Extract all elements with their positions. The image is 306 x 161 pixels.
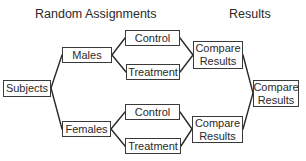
- edge-females-control: [111, 112, 125, 129]
- node-females-compare-line1: Compare: [195, 117, 240, 130]
- edge-females-treatment: [111, 129, 125, 146]
- node-females: Females: [62, 121, 111, 137]
- node-males-label: Males: [72, 49, 101, 62]
- edge-fcompare-final: [243, 93, 253, 129]
- node-subjects-label: Subjects: [6, 82, 48, 95]
- node-males-treatment-label: Treatment: [128, 66, 178, 79]
- node-females-treatment: Treatment: [125, 138, 181, 154]
- node-females-control: Control: [125, 104, 180, 120]
- node-males-compare-results: Compare Results: [193, 41, 243, 69]
- node-females-label: Females: [65, 123, 107, 136]
- node-females-treatment-label: Treatment: [128, 140, 178, 153]
- node-subjects: Subjects: [3, 80, 51, 97]
- node-males-treatment: Treatment: [126, 64, 180, 80]
- edge-subjects-males: [51, 55, 62, 88]
- heading-results: Results: [229, 8, 271, 21]
- edge-males-treatment: [112, 55, 126, 72]
- node-females-compare-line2: Results: [199, 130, 236, 143]
- node-final-compare-line2: Results: [258, 94, 295, 107]
- node-males: Males: [62, 47, 112, 63]
- edge-ftreatment-fcompare: [181, 129, 192, 146]
- node-males-compare-line1: Compare: [195, 42, 240, 55]
- node-females-control-label: Control: [135, 106, 170, 119]
- edge-fcontrol-fcompare: [180, 112, 192, 129]
- node-females-compare-results: Compare Results: [192, 116, 243, 143]
- edge-mtreatment-mcompare: [180, 55, 193, 72]
- heading-random-assignments: Random Assignments: [35, 8, 157, 21]
- node-males-compare-line2: Results: [200, 55, 237, 68]
- node-final-compare-line1: Compare: [253, 81, 298, 94]
- node-males-control: Control: [125, 30, 180, 46]
- edge-mcompare-final: [243, 55, 253, 93]
- experimental-design-diagram: Random Assignments Results Subjects Male…: [0, 0, 306, 161]
- edge-subjects-females: [51, 88, 62, 129]
- edge-males-control: [112, 38, 125, 55]
- node-males-control-label: Control: [135, 32, 170, 45]
- node-final-compare-results: Compare Results: [253, 80, 299, 107]
- edge-mcontrol-mcompare: [180, 38, 193, 55]
